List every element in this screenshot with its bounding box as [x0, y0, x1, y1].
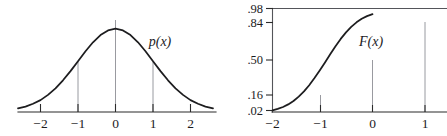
pdf-xtick-label-0: 0: [112, 116, 119, 131]
pdf-xtick-label-neg1: −1: [71, 116, 85, 131]
pdf-xtick-label-neg2: −2: [33, 116, 47, 131]
cdf-xtick-label-neg2: −2: [265, 116, 279, 131]
cdf-xtick-label-1: 1: [422, 116, 429, 131]
pdf-xtick-label-1: 1: [150, 116, 157, 131]
pdf-chart-panel: −2 −1 0 1 2 p(x): [0, 0, 224, 136]
cdf-x-ticks: [321, 105, 426, 112]
cdf-chart-panel: .98 .84 .50 .16 .02 −2 −1 0 1 F(x): [223, 0, 447, 136]
pdf-x-ticks: [41, 104, 191, 112]
cdf-ytick-label-02: .02: [247, 104, 263, 118]
pdf-xtick-label-2: 2: [187, 116, 194, 131]
cdf-ytick-label-84: .84: [247, 16, 263, 30]
pdf-gridlines: [78, 20, 153, 112]
cdf-curve: [273, 14, 373, 110]
pdf-curve-annotation: p(x): [148, 34, 172, 50]
cdf-xtick-label-neg1: −1: [313, 116, 327, 131]
cdf-ytick-label-50: .50: [247, 53, 263, 67]
pdf-chart-svg: −2 −1 0 1 2 p(x): [0, 0, 224, 136]
cdf-ytick-label-16: .16: [247, 88, 263, 102]
cdf-chart-svg: .98 .84 .50 .16 .02 −2 −1 0 1 F(x): [223, 0, 447, 136]
cdf-xtick-label-0: 0: [369, 116, 376, 131]
figure-root: −2 −1 0 1 2 p(x): [0, 0, 447, 136]
cdf-ytick-label-98: .98: [247, 2, 263, 16]
cdf-curve-annotation: F(x): [358, 34, 383, 50]
